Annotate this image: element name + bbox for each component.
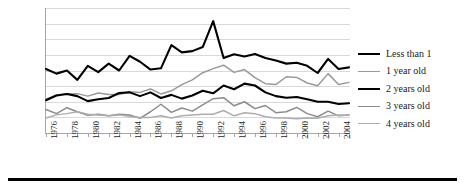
series-lines: [46, 8, 349, 133]
legend-item[interactable]: 4 years old: [358, 115, 465, 133]
legend-item[interactable]: 3 years old: [358, 98, 465, 116]
bottom-divider-rule: [8, 178, 457, 181]
legend-line-swatch: [358, 88, 380, 90]
series-lines-container: [46, 8, 349, 133]
legend-line-swatch: [358, 71, 380, 72]
legend-item-label: 4 years old: [386, 119, 430, 129]
chart-figure: 400350300250200150100500 197619781980198…: [0, 0, 465, 189]
x-axis-tick: [46, 133, 47, 137]
series-line: [46, 84, 349, 104]
x-axis-tick: [318, 133, 319, 137]
x-axis-tick: [213, 133, 214, 137]
x-axis-tick: [234, 133, 235, 137]
x-axis-tick: [276, 133, 277, 137]
chart-legend: Less than 11 year old2 years old3 years …: [358, 45, 465, 133]
legend-item-label: 1 year old: [386, 66, 426, 76]
series-line: [46, 21, 349, 80]
x-axis-tick: [109, 133, 110, 137]
legend-line-swatch: [358, 53, 380, 55]
x-axis-tick: [150, 133, 151, 137]
legend-item-label: Less than 1: [386, 49, 432, 59]
x-axis-tick: [67, 133, 68, 137]
legend-item-label: 2 years old: [386, 84, 430, 94]
chart-plot-region: 400350300250200150100500 197619781980198…: [0, 0, 352, 160]
x-axis-tick: [255, 133, 256, 137]
legend-item[interactable]: 1 year old: [358, 63, 465, 81]
x-axis-tick: [88, 133, 89, 137]
legend-line-swatch: [358, 106, 380, 107]
x-axis-tick: [339, 133, 340, 137]
x-axis-tick: [192, 133, 193, 137]
legend-line-swatch: [358, 123, 380, 124]
x-axis-tick: [171, 133, 172, 137]
x-axis-tick: [130, 133, 131, 137]
legend-item[interactable]: Less than 1: [358, 45, 465, 63]
legend-item-label: 3 years old: [386, 101, 430, 111]
legend-item[interactable]: 2 years old: [358, 80, 465, 98]
x-axis-tick: [297, 133, 298, 137]
